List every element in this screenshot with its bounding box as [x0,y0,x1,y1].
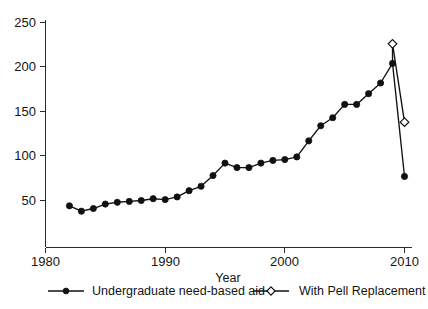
x-tick-label-1990: 1990 [151,254,180,269]
x-tick-label-2000: 2000 [270,254,299,269]
y-tick-label-100: 100 [14,148,36,163]
axis-group [46,20,413,248]
y-ticks: 250 200 150 100 50 [14,15,45,208]
series-line-0 [69,63,404,211]
data-point-filled-circle [294,154,300,160]
data-point-filled-circle [306,138,312,144]
series-layer [66,40,408,215]
legend-label-pell-replacement: With Pell Replacement [299,284,426,298]
data-point-filled-circle [78,208,84,214]
data-point-filled-circle [210,172,216,178]
chart-container: 250 200 150 100 50 1980 1990 2000 2010 Y… [0,0,428,309]
data-point-filled-circle [354,101,360,107]
data-point-filled-circle [246,164,252,170]
legend: Undergraduate need-based aid With Pell R… [48,284,426,298]
data-point-filled-circle [377,80,383,86]
y-tick-label-250: 250 [14,15,36,30]
legend-label-need-based-aid: Undergraduate need-based aid [92,284,265,298]
data-point-filled-circle [318,123,324,129]
data-point-filled-circle [174,194,180,200]
data-point-filled-circle [66,203,72,209]
data-point-filled-circle [198,183,204,189]
data-point-filled-circle [366,91,372,97]
data-point-filled-circle [126,198,132,204]
data-point-filled-circle [186,188,192,194]
line-chart: 250 200 150 100 50 1980 1990 2000 2010 Y… [0,0,428,309]
x-tick-label-1980: 1980 [31,254,60,269]
data-point-filled-circle [222,160,228,166]
data-point-filled-circle [342,101,348,107]
data-point-filled-circle [330,115,336,121]
data-point-filled-circle [282,156,288,162]
data-point-filled-circle [401,173,407,179]
data-point-filled-circle [162,197,168,203]
data-point-filled-circle [90,205,96,211]
data-point-filled-circle [114,199,120,205]
x-ticks: 1980 1990 2000 2010 [31,248,419,270]
y-tick-label-150: 150 [14,104,36,119]
data-point-open-diamond [400,118,409,127]
data-point-filled-circle [138,197,144,203]
data-point-filled-circle [234,164,240,170]
legend-filled-circle-icon [63,288,69,294]
y-tick-label-50: 50 [22,193,36,208]
legend-open-diamond-icon [267,287,275,295]
y-tick-label-200: 200 [14,59,36,74]
x-tick-label-2010: 2010 [390,254,419,269]
data-point-filled-circle [270,157,276,163]
data-point-filled-circle [102,201,108,207]
data-point-filled-circle [150,196,156,202]
data-point-filled-circle [258,160,264,166]
data-point-open-diamond [388,40,397,49]
